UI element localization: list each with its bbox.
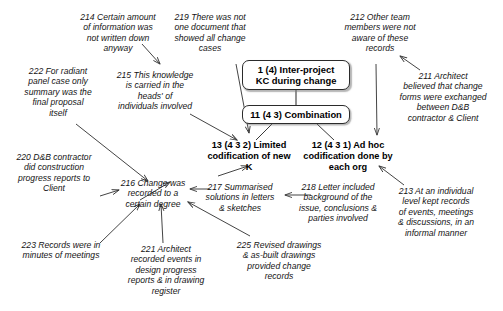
- note-223[interactable]: 223 Records were in minutes of meetings: [8, 240, 114, 261]
- diagram-canvas: 1 (4) Inter-project KC during change 11 …: [0, 0, 503, 311]
- note-215[interactable]: 215 This knowledge is carried in the hea…: [100, 70, 210, 112]
- note-213[interactable]: 213 At an individual level kept records …: [384, 186, 488, 238]
- arrow-223-216: [100, 204, 140, 243]
- link-node11-node12: [317, 124, 334, 140]
- note-225[interactable]: 225 Revised drawings & as-built drawings…: [224, 240, 334, 282]
- arrow-212-node12: [376, 64, 377, 135]
- note-211[interactable]: 211 Architect believed that change forms…: [386, 71, 500, 123]
- arrow-211-212: [400, 56, 420, 70]
- arrow-215-node13: [190, 114, 237, 140]
- note-218[interactable]: 218 Letter included background of the is…: [288, 182, 388, 224]
- note-214[interactable]: 214 Certain amount of information was no…: [64, 12, 172, 54]
- link-node11-node13: [256, 124, 272, 140]
- note-216[interactable]: 216 Change was recorded to a certain deg…: [114, 178, 192, 209]
- note-212[interactable]: 212 Other team members were not aware of…: [328, 12, 432, 54]
- note-220[interactable]: 220 D&B contractor did construction prog…: [4, 152, 104, 194]
- node-adhoc-codification[interactable]: 12 (4 3 1) Ad hoc codification done by e…: [290, 140, 406, 173]
- note-221[interactable]: 221 Architect recorded events in design …: [114, 244, 218, 296]
- note-219[interactable]: 219 There was not one document that show…: [162, 12, 258, 54]
- node-combination[interactable]: 11 (4 3) Combination: [242, 105, 350, 124]
- node-limited-codification[interactable]: 13 (4 3 2) Limited codification of new K: [194, 140, 304, 173]
- arrow-221-216: [161, 204, 163, 243]
- note-222[interactable]: 222 For radiant panel case only summary …: [10, 66, 106, 118]
- node-inter-project-kc[interactable]: 1 (4) Inter-project KC during change: [242, 60, 350, 90]
- note-217[interactable]: 217 Summarised solutions in letters & sk…: [196, 182, 284, 213]
